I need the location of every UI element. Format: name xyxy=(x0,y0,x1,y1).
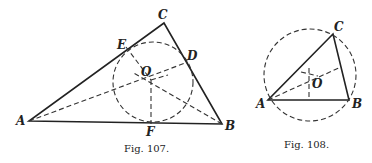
label-f: F xyxy=(145,125,156,139)
label-c: C xyxy=(158,8,168,22)
label-c: C xyxy=(334,20,344,34)
label-d: D xyxy=(186,49,198,63)
label-e: E xyxy=(116,38,127,52)
label-b: B xyxy=(351,97,362,111)
label-a: A xyxy=(255,97,265,111)
label-o: O xyxy=(141,65,152,79)
label-a: A xyxy=(15,114,25,128)
triangle-abc xyxy=(268,34,349,100)
inscribed-circle xyxy=(113,42,193,122)
label-o: O xyxy=(312,77,323,91)
bisector-a xyxy=(29,62,188,121)
median-line xyxy=(268,67,341,100)
caption-fig-108: Fig. 108. xyxy=(284,139,329,150)
bisector-c-stub xyxy=(151,75,168,80)
figure-107: A B C D E F O Fig. 107. xyxy=(15,8,235,154)
caption-fig-107: Fig. 107. xyxy=(124,143,169,154)
label-b: B xyxy=(224,119,235,133)
geometry-figures: A B C D E F O Fig. 107. A B C O Fig. 108… xyxy=(0,0,372,163)
figure-108: A B C O Fig. 108. xyxy=(255,20,362,150)
bisector-b xyxy=(132,72,222,124)
